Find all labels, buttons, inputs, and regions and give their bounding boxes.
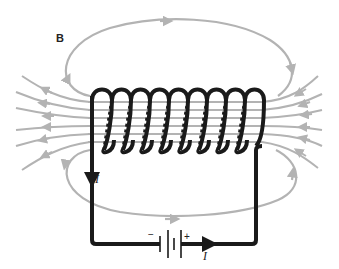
battery-negative-label: − xyxy=(148,229,154,240)
diagram-graphic xyxy=(0,0,339,269)
current-label-left: I xyxy=(95,172,99,187)
field-label-b: B xyxy=(56,32,64,44)
battery xyxy=(160,230,181,258)
field-line-top-loop xyxy=(66,19,292,96)
field-lines-right xyxy=(262,76,322,168)
battery-positive-label: + xyxy=(184,231,190,242)
field-lines-left xyxy=(16,76,90,170)
field-line-bottom-loop xyxy=(65,150,296,219)
current-label-bottom: I xyxy=(203,249,207,264)
field-lines-interior xyxy=(88,102,262,142)
solenoid-diagram: B I I − + xyxy=(0,0,339,269)
